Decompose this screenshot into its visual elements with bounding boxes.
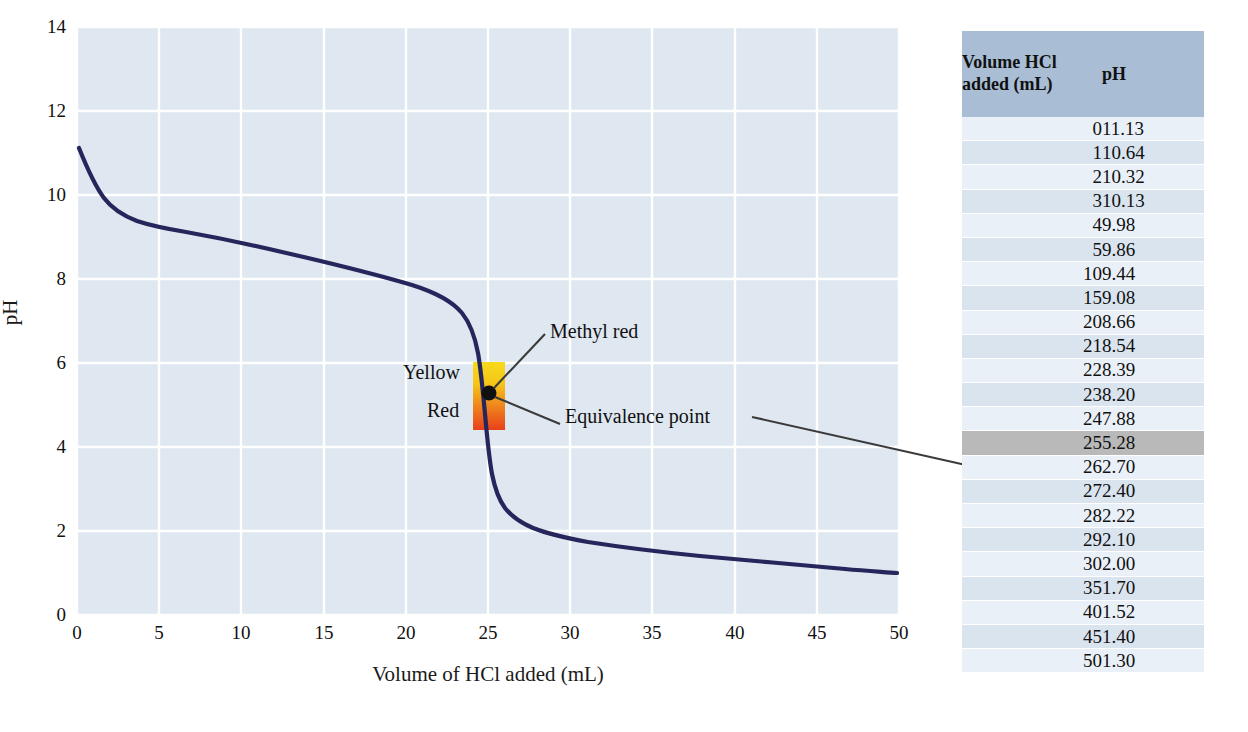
cell-ph: 9.44 [1102, 262, 1204, 286]
x-tick-45: 45 [808, 622, 827, 644]
x-tick-50: 50 [890, 622, 909, 644]
cell-ph: 1.52 [1102, 600, 1204, 624]
x-tick-0: 0 [72, 622, 82, 644]
cell-volume: 15 [962, 286, 1102, 310]
cell-volume: 23 [962, 383, 1102, 407]
y-tick-2: 2 [28, 520, 66, 542]
cell-ph: 2.22 [1102, 504, 1204, 528]
table-row: 228.39 [962, 358, 1204, 382]
titration-chart: 0 5 10 15 20 25 30 35 40 45 50 0 2 4 6 8… [0, 0, 940, 732]
cell-ph: 8.20 [1102, 383, 1204, 407]
y-tick-8: 8 [28, 268, 66, 290]
x-tick-15: 15 [315, 622, 334, 644]
cell-ph: 8.66 [1102, 310, 1204, 334]
titration-figure: 0 5 10 15 20 25 30 35 40 45 50 0 2 4 6 8… [0, 0, 1248, 732]
cell-volume: 21 [962, 334, 1102, 358]
x-axis-title: Volume of HCl added (mL) [77, 662, 899, 687]
cell-volume: 29 [962, 528, 1102, 552]
cell-volume: 35 [962, 576, 1102, 600]
cell-ph: 1.30 [1102, 649, 1204, 673]
cell-ph: 9.86 [1102, 237, 1204, 261]
table-row: 310.13 [962, 189, 1204, 213]
table-row: 282.22 [962, 504, 1204, 528]
column-header-volume-line1: Volume HCl [962, 52, 1057, 72]
table-row: 159.08 [962, 286, 1204, 310]
table-row: 238.20 [962, 383, 1204, 407]
table-row: 351.70 [962, 576, 1204, 600]
table-row: 59.86 [962, 237, 1204, 261]
y-tick-12: 12 [22, 100, 66, 122]
cell-ph: 10.64 [1102, 141, 1204, 165]
cell-volume: 30 [962, 552, 1102, 576]
y-tick-6: 6 [28, 352, 66, 374]
cell-volume: 10 [962, 262, 1102, 286]
cell-ph: 9.98 [1102, 213, 1204, 237]
cell-ph: 10.32 [1102, 165, 1204, 189]
table-row: 110.64 [962, 141, 1204, 165]
plot-canvas [0, 0, 940, 732]
y-tick-14: 14 [22, 16, 66, 38]
indicator-red-label: Red [427, 399, 459, 422]
column-header-ph: pH [1102, 31, 1204, 117]
x-tick-5: 5 [154, 622, 164, 644]
cell-ph: 2.70 [1102, 455, 1204, 479]
table-row: 302.00 [962, 552, 1204, 576]
cell-ph: 2.00 [1102, 552, 1204, 576]
table-row: 247.88 [962, 407, 1204, 431]
cell-ph: 5.28 [1102, 431, 1204, 455]
table-row-highlighted: 255.28 [962, 431, 1204, 455]
y-tick-10: 10 [22, 184, 66, 206]
column-header-volume-line2: added (mL) [962, 74, 1053, 94]
cell-volume: 26 [962, 455, 1102, 479]
cell-volume: 3 [962, 189, 1102, 213]
cell-ph: 7.88 [1102, 407, 1204, 431]
table-row: 49.98 [962, 213, 1204, 237]
cell-ph: 2.40 [1102, 479, 1204, 503]
cell-volume: 24 [962, 407, 1102, 431]
cell-ph: 11.13 [1102, 117, 1204, 141]
cell-volume: 45 [962, 624, 1102, 648]
x-tick-10: 10 [232, 622, 251, 644]
x-tick-30: 30 [561, 622, 580, 644]
table-row: 011.13 [962, 117, 1204, 141]
y-axis-title: pH [0, 300, 23, 326]
cell-ph: 1.40 [1102, 624, 1204, 648]
x-tick-40: 40 [726, 622, 745, 644]
cell-volume: 28 [962, 504, 1102, 528]
indicator-yellow-label: Yellow [403, 361, 460, 384]
cell-volume: 5 [962, 237, 1102, 261]
equivalence-point-label: Equivalence point [565, 405, 710, 428]
table-row: 262.70 [962, 455, 1204, 479]
x-tick-25: 25 [479, 622, 498, 644]
cell-volume: 1 [962, 141, 1102, 165]
titration-data-table: Volume HCl added (mL) pH 011.13110.64210… [962, 31, 1204, 673]
cell-volume: 4 [962, 213, 1102, 237]
table-row: 272.40 [962, 479, 1204, 503]
cell-ph: 10.13 [1102, 189, 1204, 213]
cell-ph: 8.54 [1102, 334, 1204, 358]
cell-volume: 22 [962, 358, 1102, 382]
column-header-volume: Volume HCl added (mL) [962, 31, 1102, 117]
cell-volume: 40 [962, 600, 1102, 624]
table-header: Volume HCl added (mL) pH [962, 31, 1204, 117]
table-row: 501.30 [962, 649, 1204, 673]
cell-volume: 20 [962, 310, 1102, 334]
cell-volume: 50 [962, 649, 1102, 673]
y-tick-4: 4 [28, 436, 66, 458]
cell-volume: 25 [962, 431, 1102, 455]
x-tick-35: 35 [643, 622, 662, 644]
table-row: 109.44 [962, 262, 1204, 286]
table-row: 218.54 [962, 334, 1204, 358]
table-row: 292.10 [962, 528, 1204, 552]
cell-ph: 1.70 [1102, 576, 1204, 600]
table-body: 011.13110.64210.32310.1349.9859.86109.44… [962, 117, 1204, 673]
table-row: 210.32 [962, 165, 1204, 189]
cell-volume: 27 [962, 479, 1102, 503]
methyl-red-label: Methyl red [550, 320, 638, 343]
table-row: 401.52 [962, 600, 1204, 624]
y-tick-0: 0 [28, 604, 66, 626]
cell-ph: 2.10 [1102, 528, 1204, 552]
cell-volume: 0 [962, 117, 1102, 141]
x-tick-20: 20 [397, 622, 416, 644]
cell-ph: 9.08 [1102, 286, 1204, 310]
